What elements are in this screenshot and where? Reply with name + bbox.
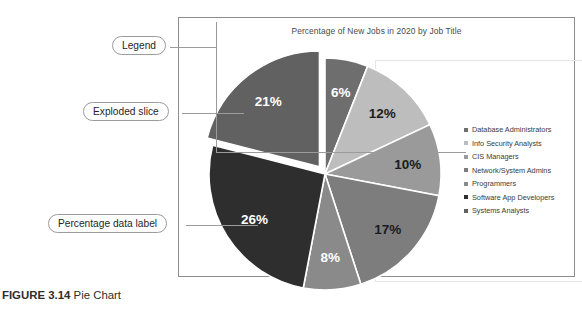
figure-number: FIGURE 3.14	[2, 289, 70, 301]
legend-item-label: CIS Managers	[472, 153, 519, 160]
figure-caption: FIGURE 3.14 Pie Chart	[2, 289, 121, 301]
pie-svg: 6%12%10%17%8%26%21%	[205, 52, 450, 297]
annotation-percentage-data-label: Percentage data label	[48, 214, 167, 233]
legend-item-label: Software App Developers	[472, 194, 554, 201]
legend-item-label: Database Administrators	[472, 126, 552, 133]
pie-data-label: 6%	[331, 85, 351, 100]
figure-caption-text: Pie Chart	[74, 289, 121, 301]
legend-item-label: Network/System Admins	[472, 167, 551, 174]
leader-line-legend-vertical	[216, 22, 217, 152]
legend-item[interactable]: CIS Managers	[464, 150, 576, 164]
chart-legend: Database AdministratorsInfo Security Ana…	[464, 123, 576, 218]
pie-data-label: 12%	[369, 106, 396, 121]
legend-swatch-icon	[464, 168, 468, 172]
annotation-legend: Legend	[112, 36, 166, 55]
leader-line-exploded	[182, 113, 244, 114]
pie-chart: 6%12%10%17%8%26%21%	[205, 52, 450, 297]
legend-swatch-icon	[464, 128, 468, 132]
pie-data-label: 21%	[255, 94, 282, 109]
annotation-exploded-slice: Exploded slice	[83, 102, 169, 121]
legend-swatch-icon	[464, 141, 468, 145]
legend-swatch-icon	[464, 209, 468, 213]
legend-item[interactable]: Software App Developers	[464, 191, 576, 205]
pie-data-label: 17%	[374, 222, 401, 237]
legend-item[interactable]: Network/System Admins	[464, 164, 576, 178]
leader-line-legend-to-legend	[216, 152, 466, 153]
legend-item-label: Programmers	[472, 180, 516, 187]
legend-item-label: Systems Analysts	[472, 207, 529, 214]
legend-item[interactable]: Systems Analysts	[464, 204, 576, 218]
pie-data-label: 8%	[320, 250, 340, 265]
legend-item[interactable]: Info Security Analysts	[464, 137, 576, 151]
legend-item[interactable]: Database Administrators	[464, 123, 576, 137]
legend-swatch-icon	[464, 155, 468, 159]
leader-line-datalabel	[186, 225, 258, 226]
legend-item-label: Info Security Analysts	[472, 140, 542, 147]
pie-data-label: 10%	[394, 157, 421, 172]
chart-title: Percentage of New Jobs in 2020 by Job Ti…	[178, 26, 575, 36]
legend-swatch-icon	[464, 182, 468, 186]
legend-swatch-icon	[464, 195, 468, 199]
leader-line-legend	[170, 47, 217, 48]
legend-item[interactable]: Programmers	[464, 177, 576, 191]
